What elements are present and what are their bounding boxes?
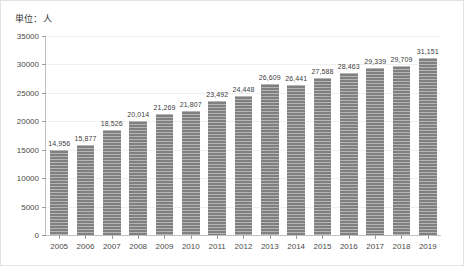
bar-chart-figure: 単位：人 05000100001500020000250003000035000… [0, 0, 464, 266]
bar [103, 130, 121, 235]
bar-value-label: 27,588 [311, 68, 333, 75]
x-axis-tick-label: 2014 [287, 242, 305, 251]
x-axis-tick-label: 2009 [156, 242, 174, 251]
plot-area: 05000100001500020000250003000035000 14,9… [45, 36, 441, 236]
x-axis-tick [401, 235, 402, 239]
x-axis-tick-label: 2005 [50, 242, 68, 251]
bar-group: 26,6092013 [257, 36, 283, 235]
y-axis-tick-label: 30000 [17, 60, 39, 69]
bar-value-label: 20,014 [127, 111, 149, 118]
x-axis-tick [375, 235, 376, 239]
bar-series: 14,956200515,877200618,526200720,0142008… [46, 36, 441, 235]
bar-value-label: 31,151 [417, 48, 439, 55]
bar [235, 96, 253, 235]
bar-value-label: 29,709 [390, 56, 412, 63]
bar-value-label: 26,609 [259, 74, 281, 81]
bar [50, 150, 68, 235]
x-axis-tick-label: 2013 [261, 242, 279, 251]
bar-value-label: 15,877 [74, 135, 96, 142]
x-axis-tick [85, 235, 86, 239]
bar-group: 18,5262007 [99, 36, 125, 235]
bar-group: 15,8772006 [72, 36, 98, 235]
bar [261, 84, 279, 235]
bar-value-label: 21,269 [153, 104, 175, 111]
bar-group: 28,4632016 [336, 36, 362, 235]
x-axis-tick [349, 235, 350, 239]
bar [419, 58, 437, 235]
bar [314, 78, 332, 235]
bar-group: 23,4922011 [204, 36, 230, 235]
bar [287, 85, 305, 235]
y-axis-tick-label: 15000 [17, 145, 39, 154]
x-axis-tick-label: 2019 [419, 242, 437, 251]
bar-value-label: 23,492 [206, 91, 228, 98]
bar-group: 24,4482012 [230, 36, 256, 235]
bar [182, 111, 200, 235]
unit-caption: 単位：人 [15, 12, 52, 25]
x-axis-tick [217, 235, 218, 239]
x-axis-tick-label: 2015 [314, 242, 332, 251]
bar [156, 114, 174, 235]
bar-value-label: 24,448 [232, 86, 254, 93]
bar-group: 31,1512019 [415, 36, 441, 235]
bar [77, 145, 95, 235]
bar-group: 21,8072010 [178, 36, 204, 235]
y-axis-tick-label: 5000 [21, 202, 39, 211]
x-axis-tick-label: 2007 [103, 242, 121, 251]
bar [393, 66, 411, 235]
bar-value-label: 14,956 [48, 140, 70, 147]
bar-group: 20,0142008 [125, 36, 151, 235]
x-axis-tick-label: 2018 [393, 242, 411, 251]
x-axis-tick [59, 235, 60, 239]
bar-group: 27,5882015 [309, 36, 335, 235]
bar-group: 29,7092018 [388, 36, 414, 235]
x-axis-tick [243, 235, 244, 239]
x-axis-tick-label: 2010 [182, 242, 200, 251]
bar-value-label: 29,339 [364, 58, 386, 65]
y-axis-tick-label: 10000 [17, 174, 39, 183]
x-axis-tick [428, 235, 429, 239]
bar [129, 121, 147, 235]
x-axis-tick [191, 235, 192, 239]
bar-group: 29,3392017 [362, 36, 388, 235]
x-axis-tick-label: 2012 [235, 242, 253, 251]
x-axis-tick [164, 235, 165, 239]
x-axis-tick [296, 235, 297, 239]
y-axis-tick-label: 20000 [17, 117, 39, 126]
bar-value-label: 28,463 [338, 63, 360, 70]
x-axis-tick-label: 2006 [77, 242, 95, 251]
bar-value-label: 26,441 [285, 75, 307, 82]
bar-value-label: 18,526 [101, 120, 123, 127]
bar [366, 68, 384, 235]
bar [340, 73, 358, 235]
bar-group: 14,9562005 [46, 36, 72, 235]
x-axis-tick [112, 235, 113, 239]
x-axis-tick-label: 2011 [209, 242, 226, 251]
x-axis-tick [322, 235, 323, 239]
x-axis-tick-label: 2008 [129, 242, 147, 251]
x-axis-tick-label: 2017 [366, 242, 384, 251]
x-axis-tick [138, 235, 139, 239]
bar-value-label: 21,807 [180, 101, 202, 108]
y-axis-tick-label: 0 [35, 231, 39, 240]
bar-group: 21,2692009 [151, 36, 177, 235]
bar [208, 101, 226, 235]
y-axis-tick-label: 35000 [17, 32, 39, 41]
x-axis-tick-label: 2016 [340, 242, 358, 251]
x-axis-tick [270, 235, 271, 239]
y-axis-tick [42, 235, 46, 236]
bar-group: 26,4412014 [283, 36, 309, 235]
y-axis-tick-label: 25000 [17, 88, 39, 97]
